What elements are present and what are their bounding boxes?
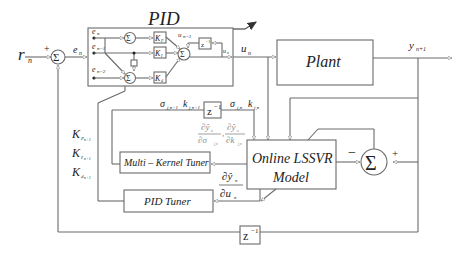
svg-text:n: n — [235, 178, 238, 183]
svg-text:∂u: ∂u — [220, 187, 231, 199]
svg-text:∂ŷ: ∂ŷ — [222, 170, 232, 182]
svg-text:PID Tuner: PID Tuner — [143, 195, 191, 207]
svg-text:j,n: j,n — [237, 141, 242, 147]
gain-output-ki: K I n+1 — [71, 146, 91, 161]
feedback-delay-block: z −1 — [240, 226, 260, 244]
svg-text:K: K — [154, 34, 161, 43]
svg-text:z: z — [201, 41, 204, 49]
svg-text:P: P — [160, 38, 164, 43]
svg-text:e: e — [92, 42, 96, 51]
svg-text:z: z — [207, 105, 212, 117]
svg-text:n: n — [248, 50, 251, 56]
svg-text:y: y — [408, 39, 414, 51]
control-signal-label: u n — [241, 42, 251, 56]
gain-output-kp: K P n+1 — [71, 127, 91, 142]
svg-text:n+1: n+1 — [416, 46, 426, 52]
multi-kernel-tuner-block: Multi – Kernel Tuner — [120, 152, 210, 173]
gain-ki: K I — [154, 47, 166, 58]
svg-text:n: n — [234, 195, 237, 200]
svg-text:n+1: n+1 — [84, 137, 91, 142]
pid-tuner-block: PID Tuner — [124, 190, 213, 212]
svg-text:σ: σ — [160, 98, 166, 109]
gradient-dy-dk: ∂ŷ n ∂k j,n — [225, 122, 245, 147]
svg-text:Σ: Σ — [180, 50, 185, 59]
svg-text:n: n — [79, 50, 82, 56]
svg-text:K: K — [71, 127, 81, 141]
svg-text:e: e — [73, 44, 78, 55]
plant-block: Plant — [277, 40, 373, 85]
svg-text:n−1: n−1 — [183, 34, 191, 39]
svg-text:k: k — [248, 98, 253, 109]
svg-text:Σ: Σ — [53, 51, 59, 63]
next-kernel-params: σ j,n+1 k j,n+1 — [160, 98, 200, 111]
pid-sum-1: Σ — [125, 33, 136, 44]
svg-text:e: e — [92, 65, 96, 74]
svg-text:n: n — [227, 50, 229, 55]
svg-text:k: k — [183, 98, 188, 109]
svg-text:Plant: Plant — [305, 53, 341, 70]
gradient-dy-dsigma: ∂ŷ n ∂σ j,n — [198, 122, 221, 147]
svg-text:u: u — [223, 48, 226, 54]
svg-text:K: K — [71, 165, 81, 179]
svg-text:PID: PID — [147, 8, 180, 29]
svg-text:Online LSSVR: Online LSSVR — [252, 151, 333, 166]
pid-output-sum: Σ — [178, 48, 190, 60]
gradient-dy-du: ∂ŷ n ∂u n — [219, 170, 243, 200]
pid-sum-2: Σ — [125, 73, 136, 84]
model-sum-minus: − — [348, 145, 356, 160]
svg-text:K: K — [154, 49, 161, 58]
pid-lssvr-control-diagram: PID r n + Σ e n e n e n−1 e n−2 — [0, 0, 469, 256]
svg-text:n−2: n−2 — [97, 69, 106, 74]
svg-text:r: r — [18, 45, 25, 64]
svg-text:Σ: Σ — [365, 152, 377, 174]
svg-text:K: K — [71, 146, 81, 160]
svg-text:−1: −1 — [251, 227, 259, 235]
pid-pointer-arrow — [245, 22, 256, 29]
reference-signal: r n — [18, 45, 32, 65]
gradient-comma: , — [222, 128, 224, 138]
svg-text:∂k: ∂k — [226, 135, 235, 145]
svg-text:K: K — [154, 74, 161, 83]
model-error-sum: Σ — [361, 149, 387, 175]
svg-text:j,n: j,n — [213, 141, 218, 147]
svg-text:σ: σ — [230, 98, 236, 109]
svg-text:u: u — [241, 42, 247, 54]
pid-gain-2-block — [131, 60, 137, 66]
svg-text:n: n — [211, 128, 213, 133]
svg-text:u: u — [178, 31, 182, 39]
svg-text:∂σ: ∂σ — [198, 135, 207, 145]
svg-text:n+1: n+1 — [84, 175, 91, 180]
gain-kd: K d — [154, 72, 166, 83]
svg-text:e: e — [92, 27, 96, 36]
svg-text:z: z — [243, 229, 248, 243]
output-label: y n+1 — [408, 39, 426, 52]
pid-title: PID — [147, 8, 180, 29]
gain-kp: K P — [154, 32, 166, 43]
error-label: e n — [73, 44, 82, 56]
online-lssvr-model-block: Online LSSVR Model — [247, 140, 336, 189]
svg-text:Σ: Σ — [126, 74, 131, 83]
svg-text:n−1: n−1 — [97, 46, 105, 51]
svg-text:n+1: n+1 — [84, 156, 91, 161]
svg-text:Multi – Kernel Tuner: Multi – Kernel Tuner — [123, 157, 209, 168]
current-kernel-params: σ j,n k j,n — [230, 98, 260, 111]
svg-text:I: I — [80, 155, 83, 160]
svg-text:Σ: Σ — [126, 34, 131, 43]
svg-text:−1: −1 — [214, 103, 222, 111]
svg-text:Model: Model — [272, 170, 309, 185]
svg-text:−1: −1 — [206, 39, 210, 44]
svg-text:∂ŷ: ∂ŷ — [201, 122, 209, 132]
model-sum-plus: + — [392, 147, 398, 159]
pid-delay-block: z −1 — [199, 38, 211, 49]
kernel-delay-block: z −1 — [204, 102, 222, 118]
svg-text:n: n — [237, 128, 239, 133]
sum-plus-sign: + — [44, 43, 50, 54]
svg-text:∂ŷ: ∂ŷ — [227, 122, 235, 132]
gain-output-kd: K d n+1 — [71, 165, 91, 180]
error-sum-junction: Σ — [51, 50, 65, 64]
